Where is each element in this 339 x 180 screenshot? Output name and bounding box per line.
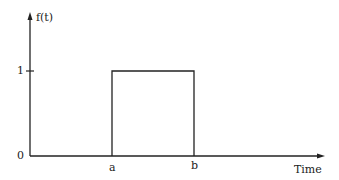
y-tick-label-1: 1	[17, 65, 24, 76]
pulse-diagram	[0, 0, 339, 180]
y-axis-label: f(t)	[36, 12, 53, 23]
y-axis-arrow-icon	[28, 12, 33, 20]
x-tick-label-a: a	[109, 162, 116, 173]
y-tick-label-0: 0	[17, 150, 24, 161]
x-axis-label: Time	[294, 164, 322, 175]
x-tick-label-b: b	[191, 160, 198, 171]
x-axis-arrow-icon	[317, 154, 325, 159]
pulse-rectangle	[112, 71, 194, 156]
